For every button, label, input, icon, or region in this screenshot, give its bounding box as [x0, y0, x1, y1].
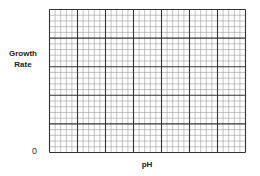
graph-grid: [0, 0, 260, 176]
major-gridlines: [50, 10, 246, 153]
minor-gridlines: [50, 10, 246, 153]
